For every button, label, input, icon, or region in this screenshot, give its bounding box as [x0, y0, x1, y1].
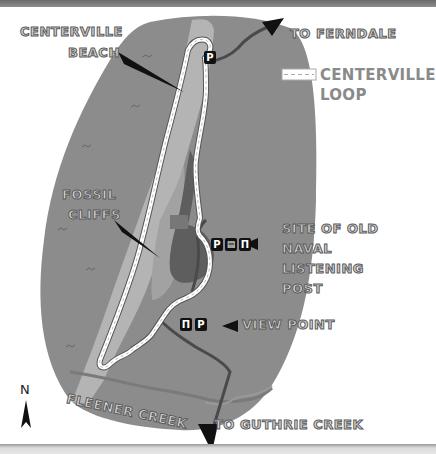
label-post: POST — [282, 282, 323, 295]
label-centerville: CENTERVILLE — [20, 25, 123, 38]
bottom-bar — [0, 444, 436, 454]
picnic-table-icon-viewpoint[interactable]: Π — [180, 318, 192, 331]
label-cliffs: CLIFFS — [68, 208, 121, 221]
parking-icon-viewpoint[interactable]: P — [195, 318, 207, 331]
label-naval: NAVAL — [282, 242, 332, 255]
label-fossil: FOSSIL — [62, 188, 116, 201]
restroom-icon[interactable]: ▤ — [225, 238, 237, 251]
legend-loop-label-2: LOOP — [320, 86, 367, 105]
compass-label: N — [20, 382, 30, 397]
clearing-area — [170, 215, 188, 229]
label-site-of-old: SITE OF OLD — [282, 222, 379, 235]
label-to-ferndale: TO FERNDALE — [290, 27, 397, 40]
north-arrow-icon — [21, 400, 31, 428]
picnic-table-icon[interactable]: Π — [239, 238, 251, 251]
parking-icon-naval[interactable]: P — [211, 238, 223, 251]
label-view-point: VIEW POINT — [242, 318, 335, 331]
label-listening: LISTENING — [282, 262, 364, 275]
label-to-guthrie-creek: TO GUTHRIE CREEK — [214, 418, 363, 431]
label-beach: BEACH — [68, 46, 120, 59]
legend-loop-label-1: CENTERVILLE — [320, 66, 436, 85]
parking-icon-north[interactable]: P — [204, 51, 216, 64]
